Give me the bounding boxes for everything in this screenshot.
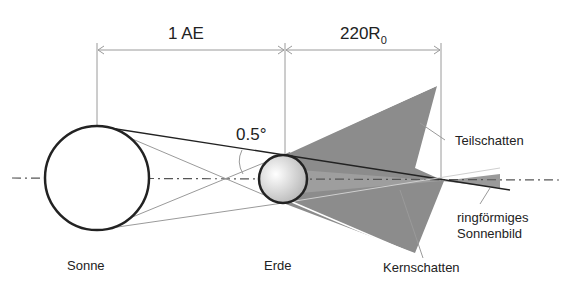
umbra-label: Kernschatten [383, 260, 460, 275]
sun-circle [45, 126, 149, 230]
sun-label: Sonne [67, 258, 105, 273]
angle-arc [239, 150, 243, 174]
penumbra-label: Teilschatten [455, 133, 524, 148]
angle-label: 0.5° [236, 125, 266, 144]
penumbra-region [283, 84, 444, 256]
earth-label: Erde [264, 258, 291, 273]
eclipse-diagram: 1 AE 220R0 0.5° Teilschatten ringförmige… [0, 0, 569, 292]
annular-label-line1: ringförmiges [457, 210, 529, 225]
dimension-umbra-length: 220R0 [340, 24, 387, 46]
annular-label-line2: Sonnenbild [457, 226, 522, 241]
earth-circle [259, 155, 307, 203]
dimension-sun-earth: 1 AE [168, 24, 204, 43]
